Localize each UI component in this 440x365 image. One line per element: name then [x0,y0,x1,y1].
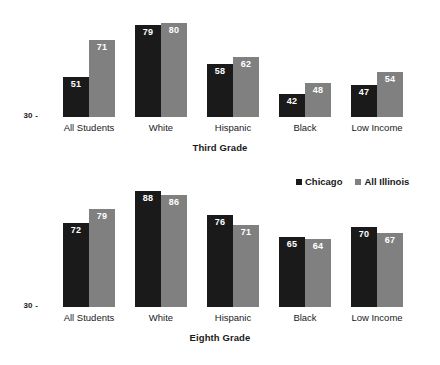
bar-third-grade-black-chicago[interactable]: 42 [279,94,305,117]
bar-group-third-grade-black: 4248 [279,83,331,117]
bar-eighth-grade-low-income-all-illinois[interactable]: 67 [377,233,403,307]
bar-value-label: 64 [305,242,331,251]
category-labels-eighth-grade: All StudentsWhiteHispanicBlackLow Income [40,312,435,326]
plot-area-eighth-grade: 72798886767165647067 [40,183,435,307]
bar-value-label: 71 [89,43,115,52]
bar-third-grade-all-students-all-illinois[interactable]: 71 [89,40,115,117]
bar-value-label: 86 [161,198,187,207]
bar-value-label: 79 [89,212,115,221]
bar-value-label: 65 [279,240,305,249]
bar-value-label: 48 [305,86,331,95]
bar-value-label: 67 [377,236,403,245]
bar-group-third-grade-hispanic: 5862 [207,57,259,117]
bar-third-grade-all-students-chicago[interactable]: 51 [63,77,89,117]
y-axis-tick-third-grade: 30 - [0,111,38,120]
bar-third-grade-hispanic-chicago[interactable]: 58 [207,64,233,117]
bar-value-label: 51 [63,80,89,89]
bar-value-label: 42 [279,97,305,106]
bar-eighth-grade-low-income-chicago[interactable]: 70 [351,227,377,307]
bar-value-label: 72 [63,226,89,235]
bar-third-grade-white-all-illinois[interactable]: 80 [161,23,187,117]
bar-group-eighth-grade-all-students: 7279 [63,209,115,307]
bar-group-eighth-grade-white: 8886 [135,191,187,307]
bar-value-label: 80 [161,26,187,35]
category-label-low-income: Low Income [351,312,402,323]
bar-group-eighth-grade-hispanic: 7671 [207,215,259,307]
category-label-white: White [149,312,173,323]
bar-value-label: 88 [135,194,161,203]
category-label-hispanic: Hispanic [215,312,251,323]
category-labels-third-grade: All StudentsWhiteHispanicBlackLow Income [40,122,435,136]
bar-eighth-grade-black-all-illinois[interactable]: 64 [305,239,331,307]
bar-group-third-grade-low-income: 4754 [351,72,403,117]
category-label-white: White [149,122,173,133]
chart-title-third-grade: Third Grade [0,142,440,153]
bar-eighth-grade-hispanic-chicago[interactable]: 76 [207,215,233,307]
bar-third-grade-black-all-illinois[interactable]: 48 [305,83,331,117]
bar-group-eighth-grade-low-income: 7067 [351,227,403,307]
bar-third-grade-white-chicago[interactable]: 79 [135,25,161,117]
bar-value-label: 79 [135,28,161,37]
plot-area-third-grade: 51717980586242484754 [40,0,435,117]
bar-third-grade-hispanic-all-illinois[interactable]: 62 [233,57,259,117]
bar-third-grade-low-income-all-illinois[interactable]: 54 [377,72,403,117]
category-label-all-students: All Students [64,312,115,323]
category-label-black: Black [293,122,316,133]
bar-value-label: 47 [351,88,377,97]
bar-eighth-grade-black-chicago[interactable]: 65 [279,237,305,307]
bar-value-label: 70 [351,230,377,239]
bar-eighth-grade-all-students-all-illinois[interactable]: 79 [89,209,115,307]
category-label-low-income: Low Income [351,122,402,133]
bar-eighth-grade-hispanic-all-illinois[interactable]: 71 [233,225,259,307]
bar-value-label: 58 [207,67,233,76]
bar-group-third-grade-all-students: 5171 [63,40,115,117]
chart-panel-third-grade: 51717980586242484754 [0,0,440,165]
y-axis-tick-eighth-grade: 30 - [0,301,38,310]
bar-value-label: 71 [233,228,259,237]
bar-eighth-grade-white-all-illinois[interactable]: 86 [161,195,187,307]
category-label-black: Black [293,312,316,323]
bar-third-grade-low-income-chicago[interactable]: 47 [351,85,377,117]
bar-eighth-grade-white-chicago[interactable]: 88 [135,191,161,307]
bar-group-eighth-grade-black: 6564 [279,237,331,307]
bar-value-label: 54 [377,75,403,84]
category-label-hispanic: Hispanic [215,122,251,133]
bar-eighth-grade-all-students-chicago[interactable]: 72 [63,223,89,307]
bar-value-label: 62 [233,60,259,69]
bar-group-third-grade-white: 7980 [135,23,187,117]
chart-title-eighth-grade: Eighth Grade [0,332,440,343]
category-label-all-students: All Students [64,122,115,133]
bar-value-label: 76 [207,218,233,227]
